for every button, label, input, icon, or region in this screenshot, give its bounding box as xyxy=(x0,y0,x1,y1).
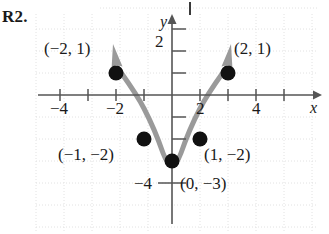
point-label-neg2-1: (−2, 1) xyxy=(44,40,90,57)
y-tick-label-neg4: −4 xyxy=(134,175,152,192)
point-label-2-1: (2, 1) xyxy=(234,40,271,57)
x-tick-label-neg4: −4 xyxy=(50,100,68,117)
data-point xyxy=(165,154,180,169)
x-axis-label: x xyxy=(310,100,317,116)
x-tick-label-2: 2 xyxy=(196,100,205,117)
exercise-label: R2. xyxy=(2,8,28,25)
point-label-1-neg2: (1, −2) xyxy=(204,146,250,163)
y-axis-label: y xyxy=(160,14,167,30)
x-tick-label-4: 4 xyxy=(252,100,261,117)
data-point xyxy=(137,132,152,147)
data-point xyxy=(221,66,236,81)
point-label-0-neg3: (0, −3) xyxy=(180,175,226,192)
point-label-neg1-neg2: (−1, −2) xyxy=(58,146,114,163)
x-tick-label-neg2: −2 xyxy=(106,100,124,117)
figure: R2. y x −4 −2 2 4 2 −4 (−2, 1) (−1, −2) … xyxy=(0,0,329,234)
data-point xyxy=(109,66,124,81)
y-tick-label-2: 2 xyxy=(155,33,164,50)
y-axis-arrow xyxy=(168,14,177,24)
